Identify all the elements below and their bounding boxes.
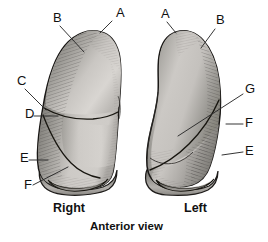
leader-line-left-a: [167, 22, 176, 33]
callout-label-right-b: B: [53, 10, 62, 25]
callout-label-left-e: E: [245, 143, 254, 158]
leader-line-right-a: [100, 21, 112, 33]
leader-line-left-e: [222, 152, 243, 155]
callout-label-right-f: F: [24, 177, 32, 192]
callout-label-right-e: E: [20, 150, 29, 165]
leader-line-left-b: [201, 29, 215, 48]
callout-label-left-g: G: [245, 81, 255, 96]
callout-label-left-f: F: [245, 115, 253, 130]
right-lung-group: [37, 30, 122, 196]
callout-label-right-a: A: [116, 5, 125, 20]
callout-label-left-b: B: [216, 12, 225, 27]
left-lung-group: [146, 30, 221, 195]
callout-label-right-d: D: [25, 106, 34, 121]
callout-label-left-a: A: [161, 6, 170, 21]
callout-label-right-c: C: [17, 73, 26, 88]
lung-anatomy-figure: A B C D E F A B G F E Right Left Anterio…: [0, 0, 268, 242]
lung-illustration-svg: A B C D E F A B G F E: [0, 0, 268, 242]
